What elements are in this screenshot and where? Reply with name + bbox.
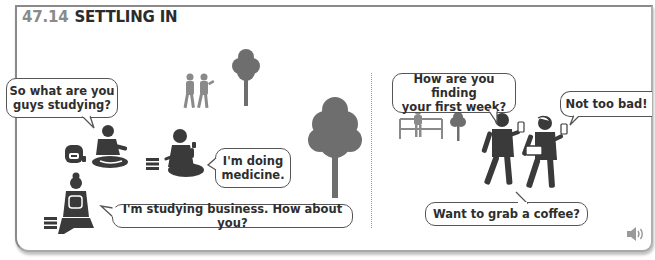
bubble-tail — [208, 158, 218, 172]
sitting-student-icon — [90, 124, 136, 172]
bubble-tail — [80, 116, 96, 130]
books-icon — [44, 217, 58, 229]
speech-bubble-first-week: How are you finding your first week? — [392, 73, 516, 113]
books-icon — [146, 158, 160, 170]
section-title: 47.14SETTLING IN — [22, 8, 177, 26]
large-tree-icon — [308, 96, 362, 200]
speech-bubble-question: So what are you guys studying? — [6, 78, 118, 118]
kneeling-student-backpack-icon — [58, 172, 98, 238]
small-tree-icon — [450, 112, 466, 142]
walking-students-icon — [180, 72, 220, 114]
speech-bubble-medicine: I'm doing medicine. — [215, 148, 291, 188]
speech-bubble-coffee: Want to grab a coffee? — [425, 202, 588, 226]
speaker-icon[interactable] — [627, 227, 645, 241]
section-heading: SETTLING IN — [74, 8, 177, 26]
scene-divider — [371, 73, 372, 228]
bubble-tail — [487, 111, 501, 125]
sitting-student-phone-icon — [162, 128, 208, 178]
section-number: 47.14 — [22, 8, 68, 26]
bubble-tail — [101, 205, 115, 219]
backpack-icon — [63, 142, 87, 166]
small-tree-icon — [230, 48, 262, 108]
bubble-tail — [515, 192, 529, 204]
speech-bubble-business: I'm studying business. How about you? — [112, 204, 353, 228]
bubble-tail — [570, 115, 584, 127]
walking-student-right-icon — [525, 116, 569, 192]
